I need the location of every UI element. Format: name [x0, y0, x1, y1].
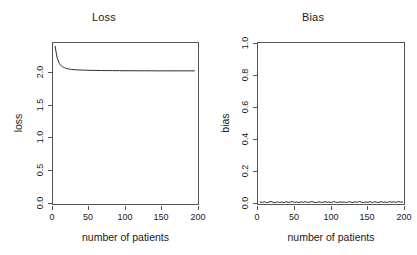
x-tick-loss-1 — [88, 206, 89, 210]
x-tick-bias-1 — [294, 206, 295, 210]
x-ticklabel-bias-3: 150 — [353, 212, 381, 222]
loss-curve-svg — [53, 43, 198, 204]
panel-loss: Loss 0.0 0.5 1.0 1.5 2.0 0 50 100 150 20… — [0, 0, 208, 255]
y-ticklabel-bias-1: 0.2 — [240, 159, 250, 183]
panel-bias-title: Bias — [209, 11, 417, 23]
y-tick-loss-4 — [48, 72, 52, 73]
x-ticklabel-bias-2: 100 — [317, 212, 345, 222]
x-ticklabel-loss-4: 200 — [184, 212, 212, 222]
y-ticklabel-loss-2: 1.0 — [35, 125, 45, 149]
x-axis-title-loss: number of patients — [52, 231, 199, 243]
x-ticklabel-bias-0: 0 — [243, 212, 271, 222]
x-tick-bias-4 — [404, 206, 405, 210]
x-tick-loss-2 — [125, 206, 126, 210]
y-tick-bias-5 — [253, 43, 257, 44]
plot-area-bias — [257, 42, 405, 205]
x-tick-bias-3 — [367, 206, 368, 210]
x-ticklabel-loss-0: 0 — [38, 212, 66, 222]
x-ticklabel-bias-1: 50 — [280, 212, 308, 222]
y-ticklabel-bias-5: 1.0 — [240, 31, 250, 55]
series-loss — [55, 46, 194, 71]
x-ticklabel-loss-3: 150 — [147, 212, 175, 222]
y-tick-loss-1 — [48, 170, 52, 171]
y-ticklabel-bias-3: 0.6 — [240, 95, 250, 119]
panel-bias: Bias 0.0 0.2 0.4 0.6 0.8 1.0 0 50 100 15… — [209, 0, 417, 255]
y-tick-bias-2 — [253, 139, 257, 140]
x-ticklabel-loss-1: 50 — [74, 212, 102, 222]
y-tick-loss-3 — [48, 105, 52, 106]
x-tick-loss-0 — [52, 206, 53, 210]
x-ticklabel-loss-2: 100 — [111, 212, 139, 222]
figure-canvas: Loss 0.0 0.5 1.0 1.5 2.0 0 50 100 150 20… — [0, 0, 417, 255]
bias-curve-svg — [258, 43, 404, 204]
y-axis-title-loss: loss — [12, 93, 24, 153]
y-axis-title-bias: bias — [219, 93, 231, 153]
y-tick-loss-2 — [48, 137, 52, 138]
y-ticklabel-loss-3: 1.5 — [35, 93, 45, 117]
y-ticklabel-loss-4: 2.0 — [35, 60, 45, 84]
y-tick-loss-0 — [48, 203, 52, 204]
series-bias — [260, 202, 402, 203]
y-tick-bias-0 — [253, 203, 257, 204]
y-ticklabel-bias-4: 0.8 — [240, 63, 250, 87]
x-axis-title-bias: number of patients — [257, 231, 405, 243]
y-ticklabel-bias-2: 0.4 — [240, 127, 250, 151]
y-tick-bias-3 — [253, 107, 257, 108]
x-tick-loss-4 — [198, 206, 199, 210]
panel-loss-title: Loss — [0, 11, 208, 23]
y-tick-bias-4 — [253, 75, 257, 76]
x-tick-bias-2 — [331, 206, 332, 210]
x-tick-bias-0 — [257, 206, 258, 210]
x-ticklabel-bias-4: 200 — [390, 212, 417, 222]
y-ticklabel-loss-1: 0.5 — [35, 158, 45, 182]
plot-area-loss — [52, 42, 199, 205]
x-tick-loss-3 — [161, 206, 162, 210]
y-tick-bias-1 — [253, 171, 257, 172]
